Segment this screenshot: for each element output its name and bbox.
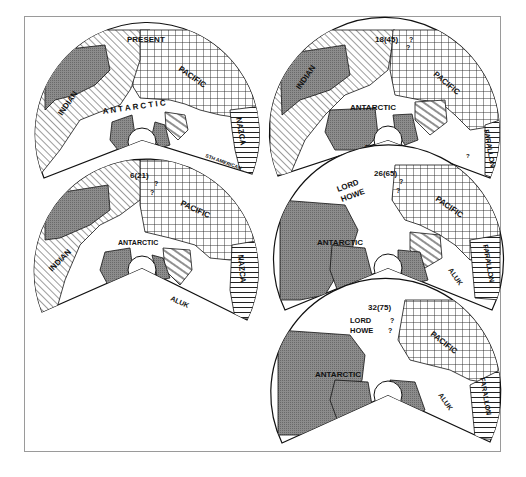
age-label: 18(45) <box>375 35 398 44</box>
plate-reconstruction-figure: PRESENT INDIAN PACIFIC A N T A R C T I C… <box>0 0 526 477</box>
question-mark: ? <box>466 153 470 159</box>
question-mark: ? <box>150 189 154 196</box>
question-mark: ? <box>396 187 400 194</box>
plate-label-antarctic: ANTARCTIC <box>350 103 396 112</box>
plate-label-antarctic: ANTARCTIC <box>315 370 361 379</box>
age-label: 6(21) <box>130 171 149 180</box>
question-mark: ? <box>406 44 410 51</box>
age-label: 26(65) <box>374 169 397 178</box>
question-mark: ? <box>388 327 392 334</box>
panel-6-21: 6(21) ? ? INDIAN PACIFIC ANTARCTIC NAZCA… <box>30 159 262 320</box>
age-label: PRESENT <box>127 35 165 44</box>
question-mark: ? <box>399 178 403 185</box>
plate-label-antarctic: ANTARCTIC <box>317 238 363 247</box>
panel-32-75: 32(75) ? ? LORD HOWE PACIFIC ANTARCTIC A… <box>271 278 501 443</box>
plate-label-antarctic: ANTARCTIC <box>118 239 158 246</box>
plate-label-howe: HOWE <box>350 326 373 335</box>
question-mark: ? <box>390 317 394 324</box>
question-mark: ? <box>154 180 158 187</box>
panel-present: PRESENT INDIAN PACIFIC A N T A R C T I C… <box>20 22 270 180</box>
plate-label-lord: LORD <box>350 316 372 325</box>
plate-label-aluk: ALUK <box>170 295 191 310</box>
question-mark: ? <box>409 36 413 43</box>
age-label: 32(75) <box>368 303 391 312</box>
